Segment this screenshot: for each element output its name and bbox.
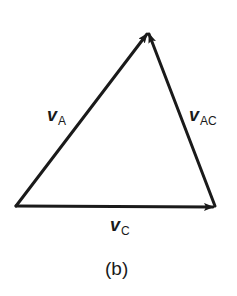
vector-vc-label: vC — [110, 216, 130, 234]
vector-va-arrow — [16, 34, 147, 206]
vector-vc-arrow — [16, 206, 213, 207]
vector-vc-subscript: C — [121, 224, 130, 238]
vector-va-symbol: v — [47, 105, 57, 125]
vector-vac-symbol: v — [189, 105, 199, 125]
vector-vc-symbol: v — [110, 215, 120, 235]
vector-vac-label: vAC — [189, 106, 217, 124]
figure-caption: (b) — [105, 258, 128, 280]
vector-va-subscript: A — [58, 114, 66, 128]
vector-vac-subscript: AC — [200, 114, 217, 128]
vector-triangle-diagram — [0, 0, 237, 296]
vector-va-label: vA — [47, 106, 66, 124]
